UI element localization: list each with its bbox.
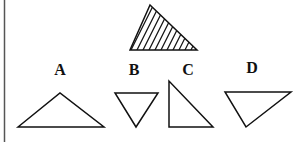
option-a-triangle[interactable] xyxy=(18,93,104,127)
option-b-label: B xyxy=(129,61,140,79)
option-b-triangle[interactable] xyxy=(115,93,158,127)
option-c-triangle[interactable] xyxy=(169,81,213,127)
option-a-label: A xyxy=(54,61,66,79)
option-d-triangle[interactable] xyxy=(225,92,291,127)
figure-canvas xyxy=(0,0,306,145)
reference-triangle xyxy=(120,0,222,60)
option-c-label: C xyxy=(182,61,194,79)
option-d-label: D xyxy=(246,59,258,77)
